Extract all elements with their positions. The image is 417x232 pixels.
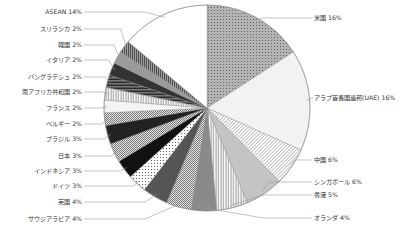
slice-label: 韓国 2%: [58, 41, 82, 49]
slice-label: サウジアラビア 4%: [28, 215, 82, 222]
leader-line: [84, 29, 127, 49]
slice-label: ドイツ 3%: [52, 182, 82, 189]
leader-line: [84, 152, 117, 156]
slice-label: イタリア 2%: [46, 56, 82, 63]
slice-label: オランダ 4%: [314, 214, 350, 222]
slice-label: シンガポール 6%: [314, 178, 362, 186]
slice-label: ブラジル 3%: [46, 135, 82, 142]
leader-line: [84, 204, 179, 219]
slice-label: バングラデシュ 2%: [28, 73, 82, 81]
slice-label: ASEAN 14%: [45, 8, 82, 15]
slice-label: 南アフリカ共和国 2%: [22, 88, 82, 96]
pie-chart: 米国 16%アラブ首長国連邦(UAE) 16%中国 6%シンガポール 6%香港 …: [0, 0, 417, 232]
slice-label: ベルギー 2%: [46, 120, 82, 127]
leader-line: [84, 60, 115, 70]
slice-label: 香港 5%: [314, 191, 338, 199]
leader-line: [84, 45, 120, 59]
slice-label: 英国 4%: [58, 198, 82, 206]
leader-line: [84, 194, 157, 202]
leader-line: [84, 12, 165, 17]
leader-line: [255, 18, 312, 20]
leader-line: [84, 77, 111, 82]
pie-slices: [104, 5, 310, 211]
leader-line: [84, 119, 108, 124]
slice-label: スリランカ 2%: [40, 25, 82, 32]
leader-line: [84, 134, 111, 139]
leader-line: [84, 92, 108, 94]
leader-line: [84, 181, 139, 186]
slice-label: アラブ首長国連邦(UAE) 16%: [314, 94, 395, 102]
slice-label: 米国 16%: [314, 14, 342, 22]
slice-label: 中国 6%: [314, 156, 338, 164]
slice-label: フランス 2%: [46, 104, 82, 111]
slice-label: インドネシア 3%: [34, 167, 82, 174]
slice-label: 日本 3%: [58, 152, 82, 160]
leader-line: [84, 167, 127, 171]
leader-line: [84, 106, 107, 108]
